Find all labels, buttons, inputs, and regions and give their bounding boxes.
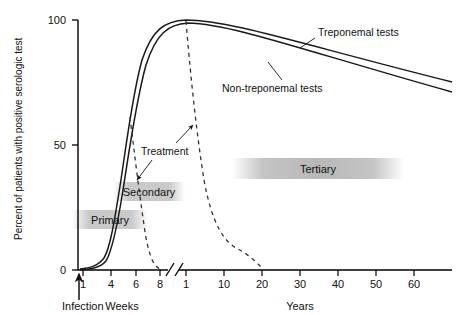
treatment-label: Treatment — [141, 145, 189, 157]
secondary-label: Secondary — [123, 186, 176, 198]
year-tick-1: 1 — [183, 278, 189, 290]
serology-chart-figure: 100 50 0 Percent of patients with positi… — [0, 0, 464, 315]
treatment-arrow-early-icon — [137, 160, 152, 180]
weeks-ticks — [83, 270, 160, 276]
y-axis-title: Percent of patients with positive serolo… — [13, 37, 24, 240]
non-treponemal-label: Non-treponemal tests — [222, 82, 322, 94]
tertiary-label: Tertiary — [300, 163, 337, 175]
year-tick-20: 20 — [256, 278, 268, 290]
treatment-arrow-late-icon — [176, 125, 193, 143]
years-axis-title: Years — [286, 300, 314, 312]
year-tick-30: 30 — [294, 278, 306, 290]
y-axis-ticks — [72, 20, 78, 270]
axis-lines — [78, 20, 452, 276]
year-tick-50: 50 — [370, 278, 382, 290]
week-tick-6: 6 — [133, 278, 139, 290]
treatment-response-late-curve — [186, 21, 263, 269]
non-treponemal-leader-line — [268, 62, 282, 80]
primary-label: Primary — [91, 214, 129, 226]
y-tick-100: 100 — [48, 14, 66, 26]
chart-canvas: 100 50 0 Percent of patients with positi… — [0, 0, 464, 315]
week-tick-4: 4 — [108, 278, 114, 290]
week-tick-1: 1 — [80, 278, 86, 290]
year-tick-60: 60 — [408, 278, 420, 290]
year-tick-40: 40 — [332, 278, 344, 290]
y-tick-0: 0 — [60, 264, 66, 276]
y-tick-50: 50 — [54, 139, 66, 151]
non-treponemal-curve — [80, 23, 452, 270]
weeks-axis-title: Weeks — [105, 300, 139, 312]
treponemal-curve — [80, 20, 452, 269]
treponemal-label: Treponemal tests — [318, 26, 399, 38]
infection-label: Infection — [62, 300, 104, 312]
week-tick-8: 8 — [157, 278, 163, 290]
year-tick-10: 10 — [218, 278, 230, 290]
years-ticks — [186, 270, 414, 276]
